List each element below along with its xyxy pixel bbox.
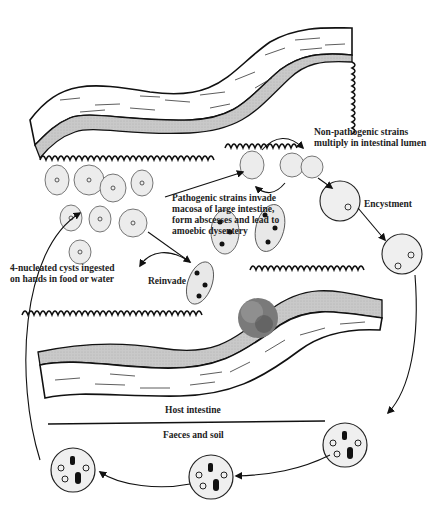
label-pathogenic: Pathogenic strains invade macosa of larg… — [172, 193, 279, 237]
label-line: Non-pathogenic strains — [314, 127, 426, 138]
label-ingested: 4-nucleated cysts ingested on hands in f… — [10, 263, 115, 285]
label-line: amoebic dysentery — [172, 226, 279, 237]
label-host-intestine: Host intestine — [165, 405, 221, 416]
label-faeces-soil: Faeces and soil — [163, 430, 224, 441]
label-line: Pathogenic strains invade — [172, 193, 279, 204]
label-line: 4-nucleated cysts ingested — [10, 263, 115, 274]
label-non-pathogenic: Non-pathogenic strains multiply in intes… — [314, 127, 426, 149]
lifecycle-diagram: Non-pathogenic strains multiply in intes… — [0, 0, 436, 515]
label-line: multiply in intestinal lumen — [314, 138, 426, 149]
upper-intestine-wall — [30, 28, 355, 160]
dividing-trophozoites — [240, 151, 323, 179]
host-faeces-divider — [48, 421, 325, 424]
trophozoite-cluster — [45, 165, 153, 264]
label-line: form abscesses and lead to — [172, 215, 279, 226]
label-line: macosa of large intestine, — [172, 204, 279, 215]
label-reinvade: Reinvade — [148, 276, 186, 287]
label-line: on hands in food or water — [10, 274, 115, 285]
encysting-cysts — [320, 181, 422, 274]
abscess — [238, 298, 278, 338]
label-encystment: Encystment — [364, 199, 412, 210]
